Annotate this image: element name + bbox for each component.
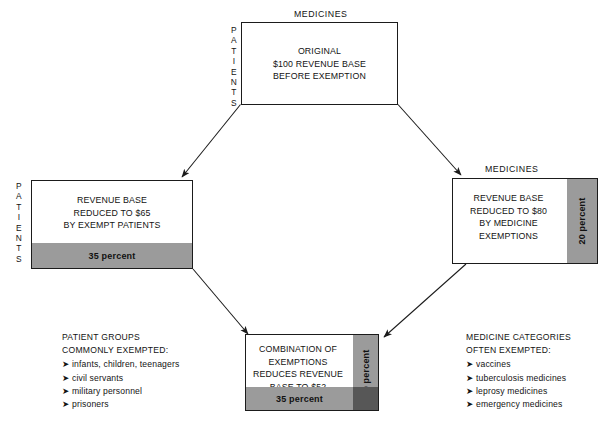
list-item-label: tuberculosis medicines xyxy=(476,373,566,383)
band-overlap-region xyxy=(353,387,378,410)
vlabel-char: I xyxy=(228,56,240,66)
list-item: ➤ emergency medicines xyxy=(466,398,571,411)
note-medicine-categories: MEDICINE CATEGORIES OFTEN EXEMPTED: ➤ va… xyxy=(466,331,571,411)
arrow-right-to-bottom xyxy=(384,264,466,337)
band-label: 35 percent xyxy=(88,251,135,261)
caption-medicines-right: MEDICINES xyxy=(485,164,538,174)
arrow-bullet-icon: ➤ xyxy=(62,358,69,371)
box-line: REDUCES REVENUE xyxy=(246,368,350,381)
vlabel-char: I xyxy=(13,212,25,222)
arrow-bullet-icon: ➤ xyxy=(466,398,473,411)
list-item-label: civil servants xyxy=(72,373,123,383)
box-line: ORIGINAL xyxy=(242,45,397,58)
list-item-label: leprosy medicines xyxy=(476,386,547,396)
box-patients-text: REVENUE BASE REDUCED TO $65 BY EXEMPT PA… xyxy=(32,194,192,232)
vlabel-char: A xyxy=(13,191,25,201)
box-line: REVENUE BASE xyxy=(453,192,564,205)
side-label-patients-left: P A T I E N T S xyxy=(13,181,25,264)
list-item: ➤ infants, children, teenagers xyxy=(62,358,179,371)
note-heading-line: PATIENT GROUPS xyxy=(62,331,179,344)
vlabel-char: E xyxy=(228,67,240,77)
box-line: EXEMPTIONS xyxy=(246,356,350,369)
vlabel-char: S xyxy=(228,98,240,108)
note-heading-line: MEDICINE CATEGORIES xyxy=(466,331,571,344)
note-heading-line: OFTEN EXEMPTED: xyxy=(466,344,571,357)
caption-medicines-top: MEDICINES xyxy=(294,9,347,19)
note-list: ➤ vaccines ➤ tuberculosis medicines ➤ le… xyxy=(466,358,571,411)
box-line: REDUCED TO $65 xyxy=(32,207,192,220)
list-item-label: vaccines xyxy=(476,359,511,369)
band-label: 35 percent xyxy=(276,394,323,404)
box-line: BEFORE EXEMPTION xyxy=(242,70,397,83)
vlabel-char: S xyxy=(13,254,25,264)
arrow-bullet-icon: ➤ xyxy=(466,358,473,371)
box-line: BY MEDICINE xyxy=(453,217,564,230)
vlabel-char: E xyxy=(13,223,25,233)
arrow-left-to-bottom xyxy=(193,269,248,334)
arrow-bullet-icon: ➤ xyxy=(62,372,69,385)
vlabel-char: N xyxy=(228,77,240,87)
list-item-label: emergency medicines xyxy=(476,399,562,409)
arrow-bullet-icon: ➤ xyxy=(466,385,473,398)
list-item: ➤ vaccines xyxy=(466,358,571,371)
box-medicines-text: REVENUE BASE REDUCED TO $80 BY MEDICINE … xyxy=(453,192,564,242)
arrow-bullet-icon: ➤ xyxy=(62,385,69,398)
diagram-canvas: MEDICINES P A T I E N T S ORIGINAL $100 … xyxy=(0,0,611,425)
box-combination-text: COMBINATION OF EXEMPTIONS REDUCES REVENU… xyxy=(246,343,350,393)
box-line: EXEMPTIONS xyxy=(453,230,564,243)
vlabel-char: T xyxy=(13,243,25,253)
list-item-label: military personnel xyxy=(72,386,142,396)
box-line: $100 REVENUE BASE xyxy=(242,58,397,71)
arrow-top-to-right xyxy=(398,105,461,176)
box-revenue-base-patients: REVENUE BASE REDUCED TO $65 BY EXEMPT PA… xyxy=(31,180,193,269)
side-label-patients-top: P A T I E N T S xyxy=(228,25,240,108)
band-20-percent-medicines: 20 percent xyxy=(567,179,597,263)
list-item: ➤ civil servants xyxy=(62,372,179,385)
vlabel-char: A xyxy=(228,35,240,45)
box-original-text: ORIGINAL $100 REVENUE BASE BEFORE EXEMPT… xyxy=(242,45,397,83)
box-line: REDUCED TO $80 xyxy=(453,205,564,218)
vlabel-char: P xyxy=(228,25,240,35)
band-35-percent-patients: 35 percent xyxy=(32,243,192,268)
box-combination-of-exemptions: COMBINATION OF EXEMPTIONS REDUCES REVENU… xyxy=(245,334,379,411)
band-label: 20 percent xyxy=(577,197,587,244)
note-patient-groups: PATIENT GROUPS COMMONLY EXEMPTED: ➤ infa… xyxy=(62,331,179,411)
box-line: REVENUE BASE xyxy=(32,194,192,207)
box-line: COMBINATION OF xyxy=(246,343,350,356)
vlabel-char: N xyxy=(13,233,25,243)
note-heading: MEDICINE CATEGORIES OFTEN EXEMPTED: xyxy=(466,331,571,357)
arrow-bullet-icon: ➤ xyxy=(62,398,69,411)
list-item-label: infants, children, teenagers xyxy=(72,359,179,369)
list-item-label: prisoners xyxy=(72,399,109,409)
vlabel-char: T xyxy=(13,202,25,212)
vlabel-char: P xyxy=(13,181,25,191)
list-item: ➤ military personnel xyxy=(62,385,179,398)
vlabel-char: T xyxy=(228,46,240,56)
box-original-revenue-base: ORIGINAL $100 REVENUE BASE BEFORE EXEMPT… xyxy=(241,22,398,105)
vlabel-char: T xyxy=(228,87,240,97)
box-revenue-base-medicines: REVENUE BASE REDUCED TO $80 BY MEDICINE … xyxy=(452,178,598,264)
box-line: BY EXEMPT PATIENTS xyxy=(32,219,192,232)
list-item: ➤ leprosy medicines xyxy=(466,385,571,398)
note-heading: PATIENT GROUPS COMMONLY EXEMPTED: xyxy=(62,331,179,357)
note-heading-line: COMMONLY EXEMPTED: xyxy=(62,344,179,357)
list-item: ➤ prisoners xyxy=(62,398,179,411)
arrow-top-to-left xyxy=(182,105,241,178)
list-item: ➤ tuberculosis medicines xyxy=(466,372,571,385)
note-list: ➤ infants, children, teenagers ➤ civil s… xyxy=(62,358,179,411)
arrow-bullet-icon: ➤ xyxy=(466,372,473,385)
